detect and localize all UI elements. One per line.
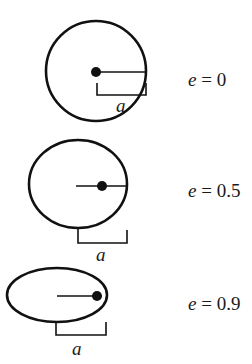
eccentricity-label: e = 0.9 — [188, 293, 240, 314]
semi-major-axis-bracket — [56, 322, 106, 335]
semi-major-axis-label: a — [96, 244, 106, 265]
semi-major-axis-bracket — [78, 228, 127, 243]
focus-star-dot — [97, 181, 107, 191]
semi-major-axis-label: a — [72, 338, 82, 359]
semi-major-axis-bracket — [97, 83, 146, 95]
elliptical-orbit — [7, 268, 107, 322]
orbit-e0: a e = 0 — [46, 21, 226, 121]
orbit-e09: a e = 0.9 — [7, 268, 240, 359]
eccentricity-diagram: a e = 0 a e = 0.5 a e = 0.9 — [0, 0, 252, 364]
orbit-e05: a e = 0.5 — [29, 140, 240, 265]
elliptical-orbit — [29, 140, 127, 228]
eccentricity-label: e = 0 — [188, 69, 226, 90]
eccentricity-label: e = 0.5 — [188, 180, 240, 201]
focus-star-dot — [92, 291, 102, 301]
semi-major-axis-label: a — [116, 95, 126, 116]
